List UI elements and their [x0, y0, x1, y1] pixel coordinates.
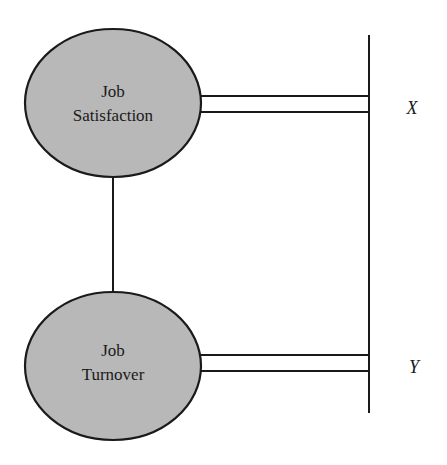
- double-line-x: [200, 96, 369, 112]
- double-line-y: [200, 355, 369, 371]
- node-label-line-2: Turnover: [82, 365, 145, 384]
- node-job-satisfaction: Job Satisfaction: [25, 29, 201, 177]
- node-label-line-2: Satisfaction: [73, 106, 154, 125]
- node-job-turnover: Job Turnover: [25, 292, 201, 440]
- node-label-line-1: Job: [101, 82, 125, 101]
- label-y: Y: [409, 357, 421, 377]
- node-label-line-1: Job: [101, 341, 125, 360]
- diagram-canvas: Job Satisfaction Job Turnover X Y: [0, 0, 447, 465]
- label-x: X: [406, 98, 419, 118]
